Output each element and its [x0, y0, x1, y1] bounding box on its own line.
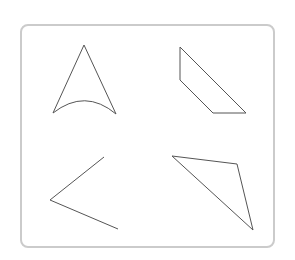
shapes-canvas [0, 0, 295, 260]
angle-shape [50, 157, 118, 229]
scalene-triangle-shape [172, 156, 253, 230]
trapezoid-shape [180, 47, 246, 113]
curved-triangle-shape [53, 45, 116, 114]
